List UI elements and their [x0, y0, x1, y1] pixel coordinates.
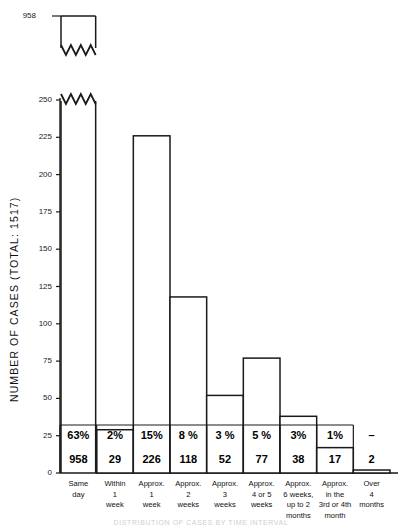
percent-cell-1: 2%	[97, 429, 134, 441]
y-tick-250: 250	[26, 95, 52, 104]
percent-cell-8: –	[353, 429, 390, 441]
percent-cell-0: 63%	[60, 429, 97, 441]
figure-caption: DISTRIBUTION OF CASES BY TIME INTERVAL	[0, 519, 402, 526]
y-tick-150: 150	[26, 244, 52, 253]
count-cell-4: 52	[207, 453, 244, 465]
category-label-8: Over4months	[349, 479, 394, 511]
y-tick-50: 50	[26, 393, 52, 402]
count-cell-6: 38	[280, 453, 317, 465]
y-tick-225: 225	[26, 132, 52, 141]
y-tick-200: 200	[26, 170, 52, 179]
chart-vector-art	[0, 0, 402, 529]
count-cell-5: 77	[243, 453, 280, 465]
count-cell-8: 2	[353, 453, 390, 465]
y-tick-25: 25	[26, 431, 52, 440]
y-tick-0: 0	[26, 468, 52, 477]
y-tick-75: 75	[26, 356, 52, 365]
percent-cell-4: 3 %	[207, 429, 244, 441]
percent-cell-6: 3%	[280, 429, 317, 441]
y-tick-125: 125	[26, 282, 52, 291]
count-cell-3: 118	[170, 453, 207, 465]
count-cell-1: 29	[97, 453, 134, 465]
percent-cell-7: 1%	[317, 429, 354, 441]
count-cell-2: 226	[133, 453, 170, 465]
percent-cell-2: 15%	[133, 429, 170, 441]
percent-cell-3: 8 %	[170, 429, 207, 441]
percent-cell-5: 5 %	[243, 429, 280, 441]
y-tick-175: 175	[26, 207, 52, 216]
count-cell-7: 17	[317, 453, 354, 465]
count-cell-0: 958	[60, 453, 97, 465]
chart-figure: NUMBER OF CASES (TOTAL: 1517) 958 025507…	[0, 0, 402, 529]
y-tick-100: 100	[26, 319, 52, 328]
